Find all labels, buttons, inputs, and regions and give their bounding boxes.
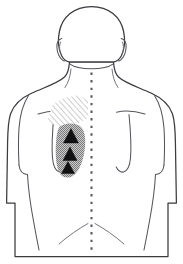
body-outline — [7, 62, 177, 256]
head-group — [57, 7, 126, 63]
head-outline — [58, 7, 124, 63]
torso-group — [7, 62, 177, 256]
figure-root: Posterior torso trigger point referred p… — [0, 0, 183, 264]
posterior-body-diagram — [0, 0, 183, 264]
